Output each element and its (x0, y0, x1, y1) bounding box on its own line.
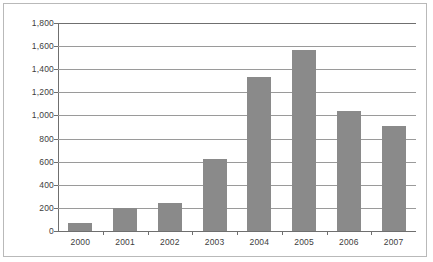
x-tick-mark-4 (237, 231, 238, 235)
x-axis: 20002001200220032004200520062007 (58, 231, 416, 255)
x-tick-label-2002: 2002 (148, 238, 193, 247)
x-tick-label-2003: 2003 (192, 238, 237, 247)
gridline-200 (58, 208, 416, 209)
gridline-400 (58, 185, 416, 186)
x-tick-label-2007: 2007 (371, 238, 416, 247)
chart-frame: 02004006008001,0001,2001,4001,6001,800 2… (3, 3, 427, 257)
bar-2004 (247, 77, 271, 231)
x-tick-mark-2 (148, 231, 149, 235)
plot-area (58, 23, 416, 231)
bar-2001 (113, 208, 137, 231)
gridline-800 (58, 139, 416, 140)
x-tick-label-2006: 2006 (327, 238, 372, 247)
gridline-600 (58, 162, 416, 163)
gridline-1400 (58, 69, 416, 70)
x-tick-label-2000: 2000 (58, 238, 103, 247)
gridline-1000 (58, 115, 416, 116)
bar-2003 (203, 159, 227, 231)
y-axis-tick-marks (4, 23, 60, 231)
x-tick-mark-3 (192, 231, 193, 235)
bar-2007 (382, 126, 406, 231)
gridline-1200 (58, 92, 416, 93)
gridline-1800 (58, 23, 416, 24)
bar-2005 (292, 50, 316, 231)
x-tick-label-2004: 2004 (237, 238, 282, 247)
x-tick-label-2005: 2005 (282, 238, 327, 247)
x-tick-mark-7 (371, 231, 372, 235)
bar-2000 (68, 223, 92, 231)
x-tick-label-2001: 2001 (103, 238, 148, 247)
x-tick-mark-1 (103, 231, 104, 235)
x-tick-mark-5 (282, 231, 283, 235)
bar-2002 (158, 203, 182, 231)
x-tick-mark-6 (327, 231, 328, 235)
bar-2006 (337, 111, 361, 231)
gridline-1600 (58, 46, 416, 47)
